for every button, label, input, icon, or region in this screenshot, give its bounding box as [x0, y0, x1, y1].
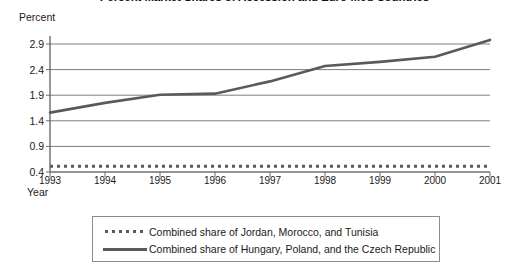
legend-swatch-solid-icon [103, 243, 149, 255]
legend-item-1[interactable]: Combined share of Hungary, Poland, and t… [103, 242, 435, 256]
series-line-1 [50, 40, 490, 113]
chart-legend: Combined share of Jordan, Morocco, and T… [92, 216, 440, 262]
x-axis-label: Year [27, 186, 48, 198]
legend-swatch-dotted-icon [103, 226, 149, 238]
legend-item-label: Combined share of Jordan, Morocco, and T… [149, 226, 378, 238]
legend-item-0[interactable]: Combined share of Jordan, Morocco, and T… [103, 225, 378, 239]
legend-item-label: Combined share of Hungary, Poland, and t… [149, 243, 435, 255]
chart-figure: Percent Market Shares of Accession and E… [0, 0, 529, 278]
